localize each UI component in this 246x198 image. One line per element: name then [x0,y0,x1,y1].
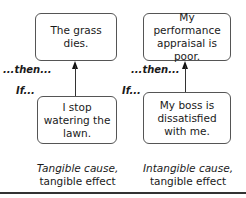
left-cause-box: I stop watering the lawn. [37,96,117,144]
right-caption-line1: Intangible cause, [143,162,233,174]
left-effect-box: The grass dies. [35,13,117,61]
right-cause-text: My boss is dissatisfied with me. [147,99,227,138]
left-caption: Tangible cause, tangible effect [25,162,130,188]
left-arrow [75,66,76,96]
right-effect-box: My performance appraisal is poor. [143,13,231,61]
right-arrow [185,66,186,93]
left-caption-line2: tangible effect [39,175,115,187]
left-caption-line1: Tangible cause, [37,162,119,174]
left-cause-text: I stop watering the lawn. [41,101,113,140]
left-then-label: ...then... [3,64,52,75]
right-if-label: If... [122,85,141,96]
left-effect-text: The grass dies. [39,24,113,50]
right-caption: Intangible cause, tangible effect [135,162,241,188]
left-if-label: If... [16,85,35,96]
right-then-label: ...then... [131,64,180,75]
right-caption-line2: tangible effect [150,175,226,187]
right-cause-box: My boss is dissatisfied with me. [143,92,231,144]
bottom-rule [0,192,246,194]
right-effect-text: My performance appraisal is poor. [147,11,227,63]
